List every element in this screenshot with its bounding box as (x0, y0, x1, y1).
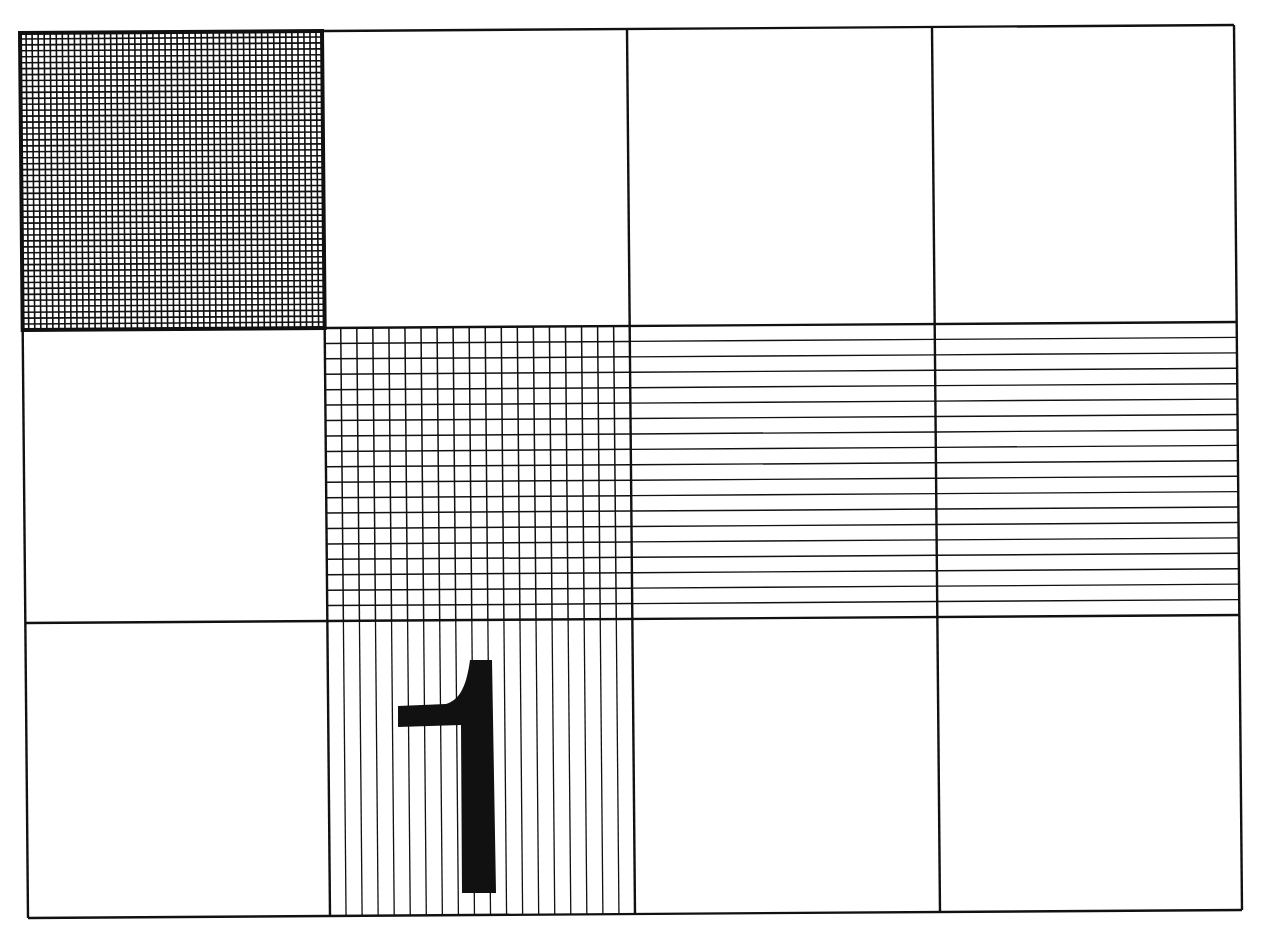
test-pattern-canvas (0, 0, 1268, 932)
